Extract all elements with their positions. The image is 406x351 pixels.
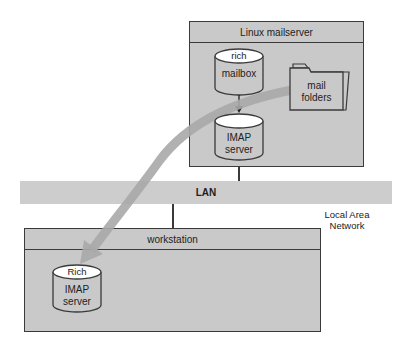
mail-folders-line2: folders	[290, 92, 343, 103]
mailbox-label: mailbox	[215, 68, 263, 79]
server-imap-line2: server	[215, 144, 263, 155]
mail-folders-line1: mail	[290, 80, 343, 91]
flow-arrow-icon	[80, 90, 292, 264]
workstation-imap-line1: IMAP	[53, 284, 101, 295]
server-imap-line1: IMAP	[215, 132, 263, 143]
workstation-imap-line2: server	[53, 296, 101, 307]
mailbox-owner-label: rich	[215, 50, 263, 61]
workstation-imap-owner-label: Rich	[53, 266, 101, 277]
